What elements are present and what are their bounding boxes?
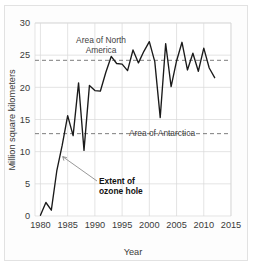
y-axis-tick-label: 20 [20, 83, 30, 93]
extent-callout-line1: Extent of [99, 176, 135, 186]
y-axis-title: Million square kilometers [7, 69, 17, 171]
ozone-hole-chart: 051015202530 198019851990199520002005201… [0, 0, 254, 272]
x-axis-tick-label: 2010 [194, 220, 214, 230]
y-axis-tick-labels: 051015202530 [20, 18, 30, 221]
x-axis-tick-label: 2000 [139, 220, 159, 230]
x-axis-tick-label: 1990 [85, 220, 105, 230]
x-axis-tick-label: 2005 [166, 220, 186, 230]
x-axis-tick-label: 1985 [57, 220, 77, 230]
y-axis-tick-label: 25 [20, 50, 30, 60]
antarctica-label: Area of Antarctica [129, 128, 195, 138]
y-axis-tick-label: 30 [20, 18, 30, 28]
x-axis-tick-labels: 19801985199019952000200520102015 [30, 220, 241, 230]
y-axis-tick-label: 5 [25, 179, 30, 189]
y-axis-tick-label: 15 [20, 115, 30, 125]
x-axis-tick-label: 2015 [221, 220, 241, 230]
y-axis-tick-label: 10 [20, 147, 30, 157]
north-america-label-line2: America [86, 45, 117, 55]
north-america-label-line1: Area of North [76, 35, 126, 45]
chart-canvas: 051015202530 198019851990199520002005201… [0, 0, 254, 272]
x-axis-tick-label: 1980 [30, 220, 50, 230]
x-axis-tick-label: 1995 [112, 220, 132, 230]
x-axis-title: Year [124, 247, 143, 257]
extent-callout-line2: ozone hole [99, 186, 143, 196]
figure-page: 051015202530 198019851990199520002005201… [0, 0, 254, 272]
